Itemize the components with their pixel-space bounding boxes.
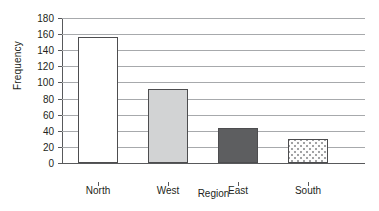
y-tick-mark-100: [58, 82, 62, 83]
plot-area: 180 160 140 120 100 80 60 40 20 0 North …: [62, 18, 365, 163]
x-axis-line: [62, 163, 365, 164]
y-tick-label-120: 120: [14, 62, 54, 72]
gridline-180: [62, 18, 365, 19]
x-axis-title: Region: [62, 188, 365, 199]
bar-east: [218, 128, 258, 163]
y-tick-mark-20: [58, 147, 62, 148]
y-tick-mark-120: [58, 66, 62, 67]
y-tick-label-80: 80: [14, 95, 54, 105]
y-tick-label-0: 0: [14, 159, 54, 169]
bar-south: [288, 139, 328, 163]
y-tick-mark-160: [58, 34, 62, 35]
bar-north: [78, 37, 118, 163]
y-tick-label-60: 60: [14, 111, 54, 121]
y-tick-mark-40: [58, 131, 62, 132]
y-tick-mark-60: [58, 115, 62, 116]
bar-chart: Frequency 180 160 140 120 100 80 60 40: [0, 0, 379, 211]
y-tick-label-100: 100: [14, 78, 54, 88]
y-tick-mark-180: [58, 18, 62, 19]
y-tick-label-140: 140: [14, 46, 54, 56]
y-tick-label-160: 160: [14, 30, 54, 40]
y-tick-label-20: 20: [14, 143, 54, 153]
gridline-160: [62, 34, 365, 35]
y-tick-mark-140: [58, 50, 62, 51]
y-tick-label-40: 40: [14, 127, 54, 137]
bar-west: [148, 89, 188, 163]
y-tick-mark-0: [58, 163, 62, 164]
y-tick-label-180: 180: [14, 14, 54, 24]
y-axis-line: [62, 18, 63, 164]
y-tick-mark-80: [58, 99, 62, 100]
